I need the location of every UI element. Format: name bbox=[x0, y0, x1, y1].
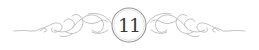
right-flourish-icon bbox=[147, 13, 245, 36]
chapter-number: 11 bbox=[111, 10, 147, 40]
left-flourish-icon bbox=[14, 13, 112, 36]
